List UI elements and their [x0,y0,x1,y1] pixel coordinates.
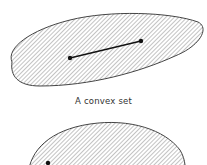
segment-endpoint-1 [68,56,72,60]
convex-set-shape [11,13,203,86]
nonconvex-set-shape [28,122,185,165]
convex-set-diagram [0,0,207,165]
segment-endpoint-2 [139,39,143,43]
set-point [46,161,50,165]
convex-set-caption: A convex set [0,96,207,106]
